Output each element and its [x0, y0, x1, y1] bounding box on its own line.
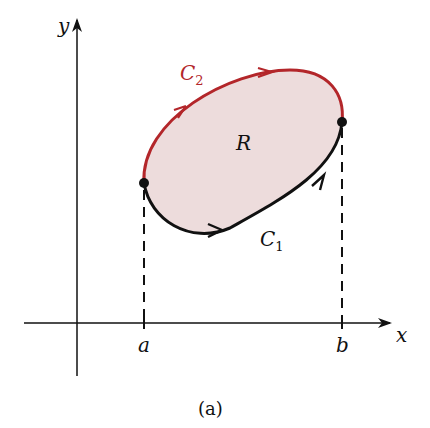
x-axis-label: x: [396, 323, 407, 347]
c1-label: C1: [260, 227, 284, 254]
y-axis-label: y: [57, 14, 70, 38]
c1-arrow-2: [312, 175, 324, 190]
tick-label-b: b: [336, 333, 349, 357]
point-a: [139, 178, 149, 188]
diagram-canvas: y x a b R C2 C1 (a): [0, 0, 430, 428]
point-b: [337, 117, 347, 127]
figure-caption: (a): [198, 398, 223, 419]
region-label: R: [235, 131, 251, 155]
c2-label: C2: [180, 61, 204, 88]
tick-label-a: a: [138, 333, 150, 357]
